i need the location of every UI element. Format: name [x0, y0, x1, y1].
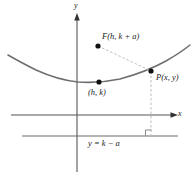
focus-to-p-dashed-line [98, 46, 151, 71]
y-axis-label: y [74, 2, 78, 10]
x-axis-label: x [178, 110, 182, 118]
point-p-label: P(x, y) [156, 73, 179, 82]
parabola-figure: y x F(h, k + a) P(x, y) (h, k) y = k − a [0, 0, 194, 172]
focus-point-label: F(h, k + a) [102, 32, 139, 41]
vertex-point-label: (h, k) [88, 88, 106, 97]
y-axis [74, 13, 80, 172]
y-axis-arrow [74, 13, 80, 21]
x-axis-arrow [171, 112, 179, 118]
point-p [148, 68, 153, 73]
directrix-label: y = k − a [88, 139, 120, 148]
focus-point [95, 43, 100, 48]
vertex-point [96, 79, 101, 84]
x-axis [11, 112, 178, 118]
